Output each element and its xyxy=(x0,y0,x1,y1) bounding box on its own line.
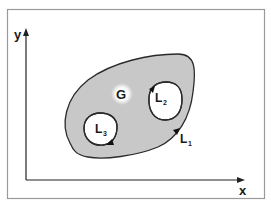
label-l3-subscript: 3 xyxy=(103,130,107,137)
y-axis-arrow-icon xyxy=(23,28,29,36)
label-l2: L 2 xyxy=(155,91,167,106)
region-g-label: G xyxy=(116,87,126,102)
label-l2-name: L xyxy=(155,91,162,105)
label-l3-name: L xyxy=(95,122,102,136)
y-axis-label: y xyxy=(14,27,22,42)
label-l1-subscript: 1 xyxy=(188,140,192,147)
x-axis-label: x xyxy=(239,183,247,198)
label-l1-name: L xyxy=(180,132,187,146)
label-l1: L 1 xyxy=(180,132,192,147)
label-l2-subscript: 2 xyxy=(163,99,167,106)
region-diagram: y x G L 1 L 2 L 3 xyxy=(0,0,271,204)
region-g xyxy=(65,54,194,158)
label-l3: L 3 xyxy=(95,122,107,137)
